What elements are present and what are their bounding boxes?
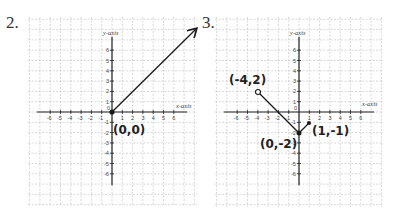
x-axis-label: x-axis [361, 100, 378, 107]
problem-3: 3. 1-11-12-22-23-33-34-44-45-55-56-66-60… [202, 13, 382, 207]
svg-text:-6: -6 [291, 171, 296, 177]
svg-text:-5: -5 [291, 161, 296, 167]
svg-text:-3: -3 [78, 115, 83, 121]
svg-text:-4: -4 [67, 115, 72, 121]
open-point [256, 90, 261, 95]
svg-text:5: 5 [162, 115, 165, 121]
label-end: (1,-1) [312, 124, 349, 138]
problem-2: 2. 1-11-12-22-23-33-34-44-45-55-56-66-60… [6, 13, 197, 205]
svg-text:4: 4 [339, 115, 342, 121]
svg-text:6: 6 [293, 47, 296, 53]
svg-text:4: 4 [293, 68, 296, 74]
svg-text:4: 4 [106, 68, 109, 74]
svg-text:-1: -1 [98, 115, 103, 121]
svg-text:1: 1 [293, 99, 296, 105]
closed-point [307, 121, 311, 125]
svg-text:1: 1 [121, 115, 124, 121]
svg-text:-1: -1 [291, 119, 296, 125]
axes: 1-11-12-22-23-33-34-44-45-55-56-66-60 [224, 37, 374, 185]
svg-text:-4: -4 [254, 115, 259, 121]
svg-text:4: 4 [152, 115, 155, 121]
svg-text:-5: -5 [104, 161, 109, 167]
svg-text:2: 2 [106, 88, 109, 94]
problem-number: 2. [6, 13, 19, 32]
svg-text:3: 3 [293, 78, 296, 84]
svg-text:3: 3 [328, 115, 331, 121]
svg-text:-4: -4 [104, 150, 109, 156]
svg-text:2: 2 [131, 115, 134, 121]
worksheet: 2. 1-11-12-22-23-33-34-44-45-55-56-66-60… [0, 0, 400, 220]
svg-text:5: 5 [106, 58, 109, 64]
svg-text:0: 0 [107, 105, 110, 111]
svg-text:-3: -3 [265, 115, 270, 121]
svg-text:-3: -3 [104, 140, 109, 146]
svg-text:-2: -2 [104, 130, 109, 136]
label-vertex: (0,-2) [260, 137, 297, 151]
closed-point [109, 109, 114, 114]
svg-text:6: 6 [172, 115, 175, 121]
svg-text:-6: -6 [104, 171, 109, 177]
svg-text:1: 1 [308, 115, 311, 121]
y-axis-label: y-axis [102, 29, 119, 36]
svg-text:-4: -4 [291, 150, 296, 156]
svg-text:6: 6 [359, 115, 362, 121]
svg-text:-5: -5 [57, 115, 62, 121]
svg-text:-2: -2 [275, 115, 280, 121]
svg-text:-1: -1 [104, 119, 109, 125]
svg-text:5: 5 [293, 58, 296, 64]
svg-text:-2: -2 [291, 130, 296, 136]
svg-text:-6: -6 [47, 115, 52, 121]
label-origin: (0,0) [113, 123, 145, 137]
svg-text:-5: -5 [244, 115, 249, 121]
svg-text:2: 2 [293, 88, 296, 94]
svg-text:-6: -6 [234, 115, 239, 121]
svg-text:1: 1 [106, 99, 109, 105]
svg-text:6: 6 [106, 47, 109, 53]
closed-point [297, 131, 302, 136]
svg-text:2: 2 [318, 115, 321, 121]
y-axis-label: y-axis [289, 29, 306, 36]
svg-text:3: 3 [141, 115, 144, 121]
svg-text:5: 5 [349, 115, 352, 121]
problem-number: 3. [202, 13, 215, 32]
label-start: (-4,2) [229, 73, 266, 87]
svg-text:-2: -2 [88, 115, 93, 121]
svg-text:0: 0 [294, 105, 297, 111]
svg-text:3: 3 [106, 78, 109, 84]
x-axis-label: x-axis [175, 102, 192, 109]
